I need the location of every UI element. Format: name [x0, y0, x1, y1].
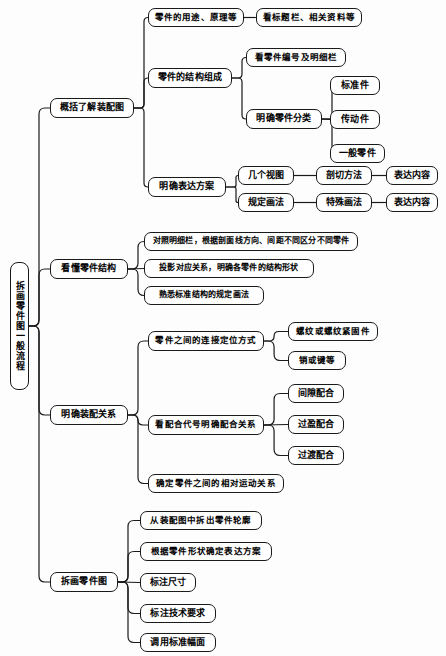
node-label: 剖切方法 [326, 171, 363, 181]
mindmap-node-n-chaihua[interactable]: 拆画零件图 [50, 572, 118, 592]
mindmap-node-n-touying[interactable]: 投影对应关系，明确各零件的结构形状 [144, 259, 314, 278]
connector-n-kandong-to-n-touying [128, 269, 144, 270]
node-label: 看懂零件结构 [61, 264, 116, 274]
mindmap-node-n-jianxi[interactable]: 间隙配合 [288, 384, 344, 403]
node-label: 螺纹或螺纹紧固件 [296, 327, 370, 336]
connector-n-chaihua-to-n-jishu [118, 582, 140, 614]
mindmap-node-n-xiaojian[interactable]: 销或键等 [288, 351, 346, 370]
connector-n-fenlei-to-n-chuandong [322, 119, 330, 120]
mindmap-node-n-neirong1[interactable]: 表达内容 [386, 166, 438, 185]
connector-n-lianjie-to-n-luowen [264, 332, 288, 342]
mindmap-node-n-teshu[interactable]: 特殊画法 [316, 193, 372, 212]
node-label: 投影对应关系，明确各零件的结构形状 [159, 264, 298, 273]
mindmap-node-n-neirong2[interactable]: 表达内容 [386, 193, 438, 212]
connector-n-kandong-to-n-duizhao [128, 242, 144, 270]
mindmap-node-n-chaichu[interactable]: 从装配图中拆出零件轮廓 [140, 511, 262, 530]
mindmap-node-n-chicun[interactable]: 标注尺寸 [140, 573, 196, 592]
node-label: 根据零件形状确定表达方案 [151, 547, 261, 556]
connector-n-chaihua-to-n-xingzhuang [118, 552, 140, 583]
node-label: 明确装配关系 [61, 410, 116, 420]
connector-n-jiegou-to-n-fenlei [232, 78, 246, 119]
mindmap-node-n-peihedh[interactable]: 看配合代号明确配合关系 [148, 415, 264, 435]
connector-n-chaihua-to-n-chaichu [118, 521, 140, 583]
mindmap-node-n-fumian[interactable]: 调用标准幅面 [140, 633, 216, 652]
node-label: 概括了解装配图 [60, 103, 124, 113]
mindmap-node-n-yundong[interactable]: 确定零件之间的相对运动关系 [148, 474, 284, 493]
connector-root-to-n-zhuangpei [29, 326, 50, 415]
node-label: 从装配图中拆出零件轮廓 [150, 516, 251, 525]
connector-root-to-n-gaikuo [29, 108, 50, 326]
node-label: 一般零件 [339, 149, 376, 159]
mindmap-node-n-xingzhuang[interactable]: 根据零件形状确定表达方案 [140, 542, 272, 561]
node-label: 表达内容 [394, 171, 431, 181]
connector-n-lianjie-to-n-xiaojian [264, 341, 288, 361]
node-label: 过盈配合 [298, 420, 335, 430]
node-label: 标准件 [341, 81, 369, 91]
mindmap-node-n-biaoti[interactable]: 看标题栏、相关资料等 [256, 8, 362, 27]
mindmap-node-n-fenlei[interactable]: 明确零件分类 [246, 109, 322, 129]
connector-n-chaihua-to-n-fumian [118, 582, 140, 643]
connector-n-gaikuo-to-n-biaoda [134, 108, 148, 187]
mindmap-canvas: 拆画零件图一般流程概括了解装配图零件的用途、原理等看标题栏、相关资料等零件的结构… [0, 0, 446, 656]
mindmap-node-n-kandong[interactable]: 看懂零件结构 [50, 259, 128, 279]
node-label: 传动件 [341, 115, 369, 125]
node-label: 过渡配合 [298, 451, 335, 461]
node-label: 销或键等 [299, 356, 336, 365]
node-label: 规定画法 [248, 198, 285, 208]
connector-n-jiegou-to-n-bianhao [232, 58, 246, 79]
connector-n-biaoda-to-n-jigeshitu [226, 176, 238, 188]
mindmap-node-n-yongtu[interactable]: 零件的用途、原理等 [148, 8, 244, 27]
mindmap-node-n-shouxi[interactable]: 熟悉标准结构的规定画法 [144, 286, 264, 305]
node-label: 表达内容 [394, 198, 431, 208]
mindmap-node-n-jishu[interactable]: 标注技术要求 [140, 604, 216, 623]
connector-n-gaikuo-to-n-jiegou [134, 78, 148, 108]
connector-n-zhuangpei-to-n-lianjie [128, 341, 148, 415]
root-node[interactable]: 拆画零件图一般流程 [10, 262, 29, 390]
node-label: 明确表达方案 [159, 182, 214, 192]
mindmap-node-n-guoying[interactable]: 过盈配合 [288, 415, 344, 434]
node-label: 明确零件分类 [256, 114, 311, 124]
connector-n-peihedh-to-n-jianxi [264, 394, 288, 426]
mindmap-node-n-biaozhun[interactable]: 标准件 [330, 76, 380, 95]
node-label: 间隙配合 [298, 389, 335, 399]
node-label: 标注技术要求 [150, 609, 205, 619]
mindmap-node-n-biaoda[interactable]: 明确表达方案 [148, 177, 226, 197]
mindmap-node-n-jigeshitu[interactable]: 几个视图 [238, 166, 294, 185]
mindmap-node-n-gaikuo[interactable]: 概括了解装配图 [50, 98, 134, 118]
mindmap-node-n-guodu[interactable]: 过渡配合 [288, 446, 344, 465]
node-label: 拆画零件图 [61, 577, 107, 587]
connector-n-gaikuo-to-n-yongtu [134, 18, 148, 109]
mindmap-node-n-chuandong[interactable]: 传动件 [330, 110, 380, 129]
mindmap-node-n-jiegou[interactable]: 零件的结构组成 [148, 68, 232, 88]
node-label: 看配合代号明确配合关系 [155, 420, 256, 429]
connector-n-peihedh-to-n-guoying [264, 425, 288, 426]
node-label: 特殊画法 [326, 198, 363, 208]
connector-n-zhuangpei-to-n-yundong [128, 415, 148, 484]
connector-root-to-n-chaihua [29, 326, 50, 582]
node-label: 拆画零件图一般流程 [15, 281, 25, 371]
mindmap-node-n-pouqie[interactable]: 剖切方法 [316, 166, 372, 185]
connector-n-biaoda-to-n-guiding [226, 187, 238, 203]
connector-n-kandong-to-n-shouxi [128, 269, 144, 296]
mindmap-node-n-bianhao[interactable]: 看零件编号及明细栏 [246, 48, 346, 67]
mindmap-node-n-duizhao[interactable]: 对照明细栏，根据剖面线方向、间距不同区分不同零件 [144, 232, 358, 251]
mindmap-node-n-lianjie[interactable]: 零件之间的连接定位方式 [148, 331, 264, 351]
node-label: 确定零件之间的相对运动关系 [156, 479, 276, 488]
node-label: 熟悉标准结构的规定画法 [159, 291, 249, 300]
node-label: 零件的结构组成 [158, 73, 222, 83]
mindmap-node-n-guiding[interactable]: 规定画法 [238, 193, 294, 212]
node-label: 看标题栏、相关资料等 [263, 13, 355, 22]
connector-n-peihedh-to-n-guodu [264, 425, 288, 456]
mindmap-node-n-zhuangpei[interactable]: 明确装配关系 [50, 405, 128, 425]
mindmap-node-n-luowen[interactable]: 螺纹或螺纹紧固件 [288, 322, 378, 341]
connector-n-chaihua-to-n-chicun [118, 582, 140, 583]
node-label: 零件的用途、原理等 [155, 13, 238, 22]
node-label: 标注尺寸 [150, 578, 187, 588]
connector-root-to-n-kandong [29, 269, 50, 326]
node-label: 对照明细栏，根据剖面线方向、间距不同区分不同零件 [153, 237, 350, 246]
node-label: 零件之间的连接定位方式 [155, 336, 256, 345]
mindmap-node-n-yiban[interactable]: 一般零件 [330, 144, 385, 163]
node-label: 几个视图 [248, 171, 285, 181]
node-label: 看零件编号及明细栏 [255, 53, 338, 62]
connector-n-zhuangpei-to-n-peihedh [128, 415, 148, 425]
